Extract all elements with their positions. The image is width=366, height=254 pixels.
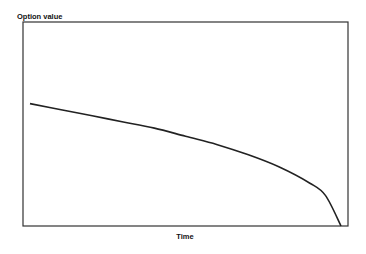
x-axis-label: Time [0,232,366,241]
chart-plot [0,0,366,254]
plot-frame [23,22,348,226]
option-value-curve [30,104,341,226]
